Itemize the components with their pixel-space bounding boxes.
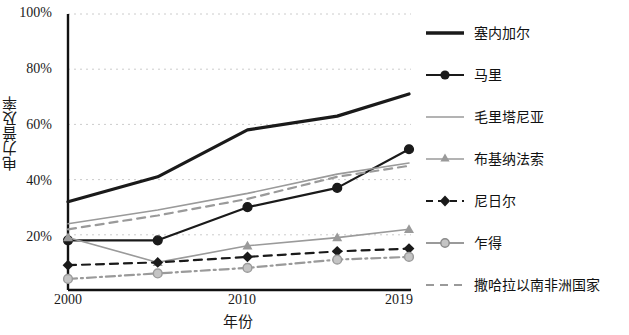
legend-label: 乍得 xyxy=(474,235,502,251)
chart-legend: 塞内加尔 马里 毛里塔尼亚 布基纳法索 尼日尔 xyxy=(424,12,629,288)
series-marker-5 xyxy=(333,255,342,264)
legend-label: 撒哈拉以南非洲国家 xyxy=(474,277,600,293)
series-marker-5 xyxy=(405,252,414,261)
series-marker-5 xyxy=(153,269,162,278)
legend-item-sub-saharan-africa: 撒哈拉以南非洲国家 xyxy=(424,272,600,298)
series-marker-5 xyxy=(243,264,252,273)
series-marker-1 xyxy=(405,145,414,154)
series-marker-4 xyxy=(242,251,253,262)
legend-swatch-thin-gray xyxy=(424,107,466,127)
series-marker-3 xyxy=(404,224,414,233)
legend-swatch-dashdot-circle xyxy=(424,233,466,253)
series-line-5 xyxy=(68,257,409,279)
legend-item-senegal: 塞内加尔 xyxy=(424,20,530,46)
legend-swatch-solid-circle xyxy=(424,65,466,85)
legend-swatch-dashed-diamond xyxy=(424,191,466,211)
legend-item-burkina-faso: 布基纳法索 xyxy=(424,146,544,172)
series-marker-4 xyxy=(152,257,163,268)
legend-swatch-solid-thick xyxy=(424,23,466,43)
legend-label: 马里 xyxy=(474,67,502,83)
legend-item-mali: 马里 xyxy=(424,62,502,88)
series-marker-1 xyxy=(153,236,162,245)
series-line-0 xyxy=(68,94,409,202)
legend-label: 毛里塔尼亚 xyxy=(474,109,544,125)
legend-item-mauritania: 毛里塔尼亚 xyxy=(424,104,544,130)
legend-swatch-gray-triangle xyxy=(424,149,466,169)
chart-figure: 电力普及率 100% 80% 60% 40% 20% 2000 2010 201… xyxy=(0,0,629,335)
series-marker-5 xyxy=(64,275,73,284)
legend-label: 尼日尔 xyxy=(474,193,516,209)
series-line-6 xyxy=(68,166,409,230)
series-marker-4 xyxy=(63,260,74,271)
series-marker-1 xyxy=(243,203,252,212)
legend-label: 布基纳法索 xyxy=(474,151,544,167)
legend-item-chad: 乍得 xyxy=(424,230,502,256)
legend-label: 塞内加尔 xyxy=(474,25,530,41)
series-marker-1 xyxy=(333,183,342,192)
legend-swatch-dashed-gray xyxy=(424,275,466,295)
series-line-2 xyxy=(68,163,409,224)
legend-item-niger: 尼日尔 xyxy=(424,188,516,214)
